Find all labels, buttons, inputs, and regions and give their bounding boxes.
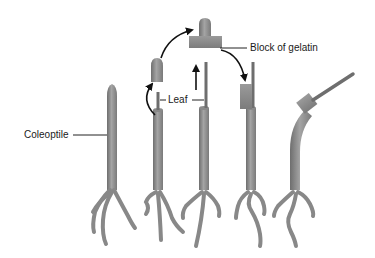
gelatin-block-with-tip	[189, 18, 222, 48]
plant-1-intact-coleoptile	[93, 84, 135, 244]
gelatin-label: Block of gelatin	[250, 42, 318, 54]
leaf-label: Leaf	[168, 94, 187, 106]
plant-2-tip-removed	[146, 92, 183, 240]
coleoptile-label: Coleoptile	[24, 129, 68, 141]
coleoptile-tip-detached	[151, 58, 163, 82]
plant-4-gelatin-on-stem	[236, 62, 265, 246]
arrow-gelatin-to-stem	[221, 50, 245, 80]
arrow-tip-to-gelatin	[161, 30, 192, 58]
plant-3-leaf-pulled	[183, 62, 220, 246]
plant-5-bent-coleoptile	[274, 74, 353, 246]
